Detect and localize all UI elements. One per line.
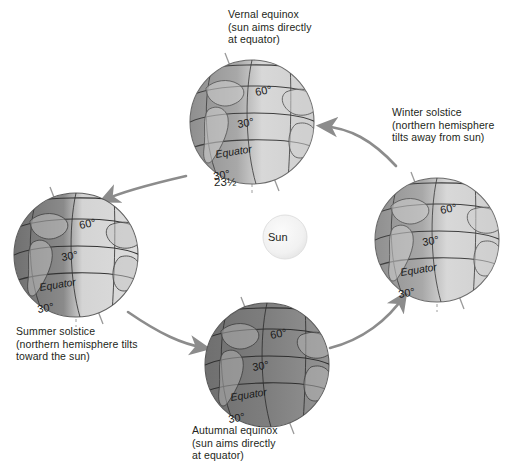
svg-text:30°: 30° [227,411,245,425]
winter-solstice-caption: Winter solstice (northern hemisphere til… [392,106,494,144]
svg-text:30°: 30° [251,359,269,373]
arrow-vernal-to-summer [104,176,186,200]
autumnal-equinox-globe: 60° 30° Equator 30° [204,297,333,434]
autumnal-equinox-caption: Autumnal equinox (sun aims directly at e… [192,424,278,462]
axial-tilt-label: 23½ [214,176,236,188]
diagram-canvas: 60° 30° Equator 30° [0,0,521,472]
arrow-autumnal-to-winter [330,296,404,348]
sun-label: Sun [268,231,288,243]
arrow-winter-to-vernal [322,126,396,166]
vernal-equinox-caption: Vernal equinox (sun aims directly at equ… [228,8,312,46]
seasons-diagram-svg: 60° 30° Equator 30° [0,0,521,472]
svg-text:30°: 30° [60,249,78,263]
arrow-summer-to-autumnal [128,312,205,348]
svg-text:30°: 30° [236,116,254,130]
winter-solstice-globe: 60° 30° Equator 30° [374,172,503,312]
summer-solstice-globe: 60° 30° Equator 30° [13,187,142,327]
svg-text:30°: 30° [36,301,54,315]
svg-text:30°: 30° [397,286,415,300]
summer-solstice-caption: Summer solstice (northern hemisphere til… [16,325,138,363]
svg-text:30°: 30° [421,234,439,248]
vernal-equinox-globe: 60° 30° Equator 30° [189,53,318,196]
